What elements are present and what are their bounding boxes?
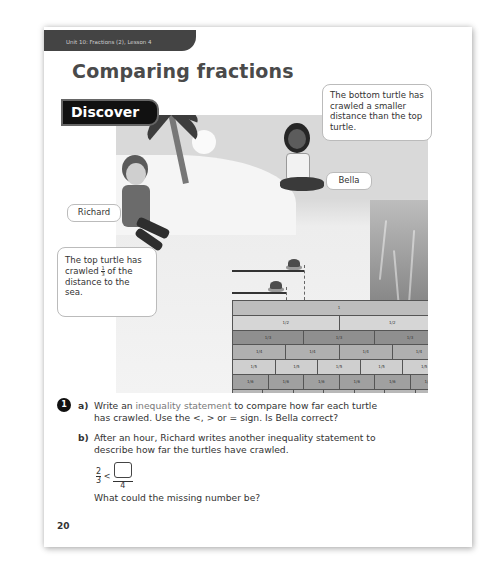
page-title: Comparing fractions [72, 60, 294, 82]
fraction-wall-cell: 1/7 [416, 390, 428, 394]
fraction-wall-cell: 1/6 [340, 375, 376, 389]
question-b-prompt: What could the missing number be? [94, 492, 260, 504]
missing-numerator-box[interactable] [114, 462, 132, 478]
fraction-wall-row: 1/21/2 [233, 316, 428, 331]
top-turtle-track [232, 270, 304, 272]
fraction-wall: 11/21/21/31/31/31/41/41/41/41/51/51/51/5… [232, 300, 428, 393]
fraction-wall-cell: 1/2 [340, 316, 429, 330]
fraction-wall-cell: 1/7 [355, 390, 385, 394]
fraction-wall-cell: 1/6 [304, 375, 340, 389]
fraction-wall-cell: 1 [233, 301, 428, 315]
fraction-wall-cell: 1/4 [340, 345, 393, 359]
fraction-wall-row: 1/51/51/51/51/5 [233, 360, 428, 375]
fraction-wall-cell: 1/5 [233, 360, 276, 374]
richard-name-label: Richard [67, 204, 121, 222]
fraction-wall-cell: 1/6 [375, 375, 411, 389]
textbook-page: Unit 10: Fractions (2), Lesson 4 Compari… [44, 27, 472, 547]
bella-name-label: Bella [326, 172, 372, 190]
fraction-wall-cell: 1/6 [269, 375, 305, 389]
fraction-wall-cell: 1/5 [276, 360, 319, 374]
fraction-wall-cell: 1/7 [294, 390, 324, 394]
fraction-wall-cell: 1/6 [233, 375, 269, 389]
question-a-label: a) [78, 400, 88, 411]
discover-badge: Discover [61, 99, 159, 126]
unit-tab: Unit 10: Fractions (2), Lesson 4 [44, 30, 196, 51]
bottom-turtle-track [232, 292, 286, 294]
question-a-text: Write an inequality statement to compare… [94, 400, 424, 423]
question-b-text: After an hour, Richard writes another in… [94, 432, 434, 455]
richard-speech-bubble: The top turtle has crawled 13 of the dis… [57, 247, 157, 317]
fraction-wall-cell: 1/3 [375, 331, 428, 345]
fraction-wall-cell: 1/6 [411, 375, 429, 389]
fraction-two-thirds: 23 [96, 468, 101, 485]
fraction-wall-cell: 1/5 [361, 360, 404, 374]
illustration-scene: 11/21/21/31/31/31/41/41/41/41/51/51/51/5… [116, 115, 428, 393]
question-b-label: b) [78, 432, 89, 443]
fraction-wall-cell: 1/4 [393, 345, 428, 359]
fraction-wall-row: 1/41/41/41/4 [233, 345, 428, 360]
fraction-wall-row: 1/71/71/71/71/71/71/7 [233, 390, 428, 394]
question-number-badge: 1 [57, 398, 71, 412]
fraction-wall-row: 1/61/61/61/61/61/6 [233, 375, 428, 390]
fraction-wall-cell: 1/4 [233, 345, 286, 359]
inequality-expression: 23 < 4 [96, 462, 133, 490]
fraction-wall-cell: 1/5 [403, 360, 428, 374]
fraction-wall-cell: 1/7 [324, 390, 354, 394]
fraction-wall-cell: 1/7 [385, 390, 415, 394]
fraction-wall-cell: 1/2 [233, 316, 340, 330]
page-number: 20 [57, 521, 70, 531]
fraction-wall-cell: 1/4 [286, 345, 339, 359]
fraction-wall-row: 1 [233, 301, 428, 316]
fraction-missing-quarters: 4 [113, 462, 133, 490]
fraction-wall-cell: 1/3 [233, 331, 304, 345]
bella-speech-bubble: The bottom turtle has crawled a smaller … [322, 84, 432, 141]
fraction-wall-cell: 1/7 [263, 390, 293, 394]
fraction-wall-cell: 1/3 [304, 331, 375, 345]
fraction-wall-cell: 1/7 [233, 390, 263, 394]
fraction-wall-cell: 1/5 [318, 360, 361, 374]
fraction-wall-row: 1/31/31/3 [233, 331, 428, 346]
